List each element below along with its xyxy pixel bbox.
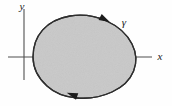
curve-gamma-label: γ xyxy=(122,16,127,28)
x-axis-label: x xyxy=(157,50,163,62)
curve-diagram-svg: x y γ xyxy=(0,0,172,106)
y-axis-label: y xyxy=(19,0,25,12)
figure-container: x y γ xyxy=(0,0,172,106)
